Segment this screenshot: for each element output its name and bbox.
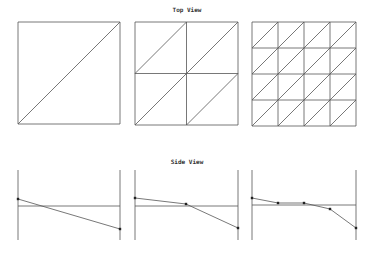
top-mesh-panel-2	[135, 22, 238, 125]
node-point	[237, 227, 239, 229]
node-point	[329, 208, 331, 210]
diagonal-line	[304, 100, 330, 126]
diagonal-line	[135, 74, 187, 126]
node-point	[251, 197, 253, 199]
diagonal-line	[304, 74, 330, 100]
diagonal-line	[330, 74, 356, 100]
diagonal-line	[304, 48, 330, 74]
diagonal-line	[252, 22, 278, 48]
profile-line	[18, 199, 120, 229]
top-mesh-panel-1	[18, 22, 120, 124]
diagonal-line	[304, 22, 330, 48]
diagonal-line	[18, 22, 120, 124]
side-view-panels	[17, 170, 357, 240]
diagonal-line	[330, 48, 356, 74]
diagonal-line	[330, 22, 356, 48]
top-view-panels	[18, 22, 356, 126]
node-point	[119, 228, 121, 230]
diagonal-line	[187, 22, 239, 74]
diagonal-line	[278, 100, 304, 126]
side-profile-panel-1	[17, 170, 121, 240]
diagonal-line	[278, 22, 304, 48]
top-view-title: Top View	[173, 6, 202, 14]
diagonal-line	[252, 74, 278, 100]
node-point	[355, 227, 357, 229]
diagonal-line	[252, 48, 278, 74]
profile-line	[135, 198, 238, 228]
side-profile-panel-3	[251, 170, 357, 240]
node-point	[303, 202, 305, 204]
node-point	[17, 198, 19, 200]
node-point	[185, 203, 187, 205]
top-mesh-panel-3	[252, 22, 356, 126]
side-view-title: Side View	[171, 158, 204, 165]
diagonal-line	[278, 48, 304, 74]
diagonal-line	[187, 74, 239, 126]
diagonal-line	[252, 100, 278, 126]
node-point	[134, 197, 136, 199]
diagonal-line	[135, 22, 187, 74]
side-profile-panel-2	[134, 170, 239, 240]
diagonal-line	[330, 100, 356, 126]
mesh-diagram: Top View Side View	[0, 0, 373, 253]
diagonal-line	[278, 74, 304, 100]
node-point	[277, 202, 279, 204]
